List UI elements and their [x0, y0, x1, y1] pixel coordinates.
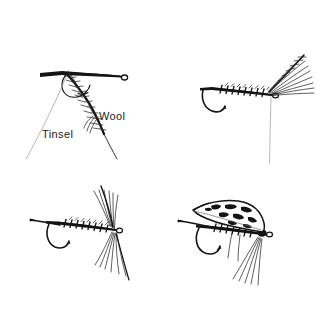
- label-wool: Wool: [99, 111, 125, 122]
- hook-shank-bottom-left: [46, 221, 116, 231]
- fly-tying-figure: Wool Tinsel: [0, 0, 330, 324]
- hook-eye-bottom-left: [117, 228, 123, 233]
- body-hair-top-right: [225, 83, 269, 90]
- throat-fibers-bottom-right: [233, 237, 262, 285]
- wool-strand-tail-top-left: [104, 134, 117, 159]
- illustration-canvas: [0, 0, 330, 324]
- body-hackle-2-bottom-right: [238, 235, 240, 261]
- panel-top-right: [200, 55, 314, 163]
- panel-bottom-left: [30, 186, 129, 280]
- tail-fiber-bottom-left: [116, 233, 129, 280]
- hook-bend-bottom-left: [47, 224, 69, 248]
- label-tinsel: Tinsel: [42, 129, 73, 140]
- wool-tuft-top-left: [84, 116, 96, 133]
- hackle-fibers-upper-bottom-left: [94, 190, 118, 229]
- hook-eye-top-left: [121, 75, 127, 80]
- tinsel-strand-top-left: [26, 77, 66, 159]
- panel-bottom-right: [178, 200, 273, 285]
- hook-bend-top-right: [202, 90, 225, 112]
- thread-hang-top-right: [270, 97, 272, 163]
- hook-bend-bottom-right: [196, 228, 220, 254]
- body-hackle-bottom-right: [228, 233, 232, 258]
- hackle-fibers-top-right: [268, 57, 314, 96]
- hook-eye-bottom-right: [267, 232, 273, 237]
